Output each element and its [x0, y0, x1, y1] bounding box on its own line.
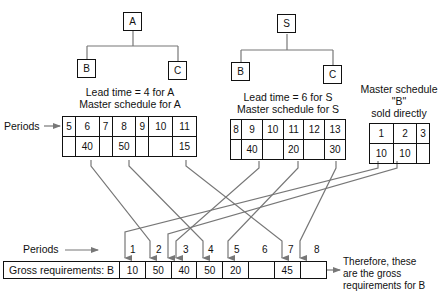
master-schedule-s-title: Master schedule for S [218, 103, 358, 115]
quantity-cell [262, 140, 283, 160]
quantity-cell: 15 [173, 137, 197, 157]
gross-period-number: 8 [314, 244, 320, 255]
gross-cell: 50 [197, 262, 223, 278]
period-cell: 12 [304, 120, 325, 140]
quantity-cell [231, 140, 242, 160]
quantity-cell [304, 140, 325, 160]
schedule-s-quantities: 40 20 30 [231, 140, 346, 160]
schedule-a-table: 5 6 7 8 9 10 11 40 50 15 [62, 116, 197, 157]
master-schedule-a-title: Master schedule for A [60, 98, 200, 110]
node-label: C [174, 65, 181, 76]
gross-period-number: 4 [208, 244, 214, 255]
gross-period-number: 6 [262, 244, 268, 255]
gross-cell [301, 262, 327, 278]
node-s-c: C [323, 65, 342, 84]
node-a-b: B [77, 59, 96, 78]
quantity-cell: 40 [242, 140, 263, 160]
quantity-cell: 40 [75, 137, 99, 157]
period-cell: 10 [149, 117, 173, 137]
schedule-a-quantities: 40 50 15 [63, 137, 197, 157]
quantity-cell [149, 137, 173, 157]
period-cell: 7 [99, 117, 112, 137]
period-cell: 11 [173, 117, 197, 137]
caption-a: Lead time = 4 for A Master schedule for … [60, 86, 200, 110]
gross-requirements-row: Gross requirements: B 10 50 40 50 20 45 [3, 261, 327, 279]
period-cell: 1 [370, 124, 394, 144]
quantity-cell [417, 144, 430, 164]
period-cell: 6 [75, 117, 99, 137]
gross-period-number: 7 [288, 244, 294, 255]
caption-line: sold directly [360, 107, 438, 119]
node-s: S [277, 14, 296, 33]
note-line: are the gross [343, 268, 425, 280]
tree-a-lines [87, 31, 178, 61]
schedule-b-table: 1 2 3 10 10 [369, 123, 430, 164]
node-a-c: C [168, 61, 187, 80]
periods-label-bottom: Periods [23, 243, 59, 255]
quantity-cell: 30 [325, 140, 346, 160]
period-cell: 13 [325, 120, 346, 140]
gross-cell: 20 [223, 262, 249, 278]
periods-label-top: Periods [4, 120, 40, 132]
quantity-cell [136, 137, 149, 157]
gross-cell: 40 [172, 262, 198, 278]
schedule-s-table: 8 9 10 11 12 13 40 20 30 [230, 119, 346, 160]
gross-cell: 10 [120, 262, 146, 278]
period-cell: 9 [242, 120, 263, 140]
schedule-a-periods: 5 6 7 8 9 10 11 [63, 117, 197, 137]
node-label: A [129, 16, 136, 27]
schedule-s-periods: 8 9 10 11 12 13 [231, 120, 346, 140]
gross-cell [249, 262, 275, 278]
period-cell: 5 [63, 117, 76, 137]
quantity-cell [99, 137, 112, 157]
caption-b-direct: Master schedule "B" sold directly [360, 83, 438, 119]
lead-time-s: Lead time = 6 for S [218, 91, 358, 103]
quantity-cell: 20 [283, 140, 304, 160]
node-label: B [237, 66, 244, 77]
period-cell: 2 [393, 124, 417, 144]
period-cell: 3 [417, 124, 430, 144]
quantity-cell: 10 [393, 144, 417, 164]
schedule-b-quantities: 10 10 [370, 144, 430, 164]
period-cell: 11 [283, 120, 304, 140]
schedule-b-periods: 1 2 3 [370, 124, 430, 144]
caption-line: "B" [360, 95, 438, 107]
gross-period-number: 2 [156, 244, 162, 255]
caption-line: Master schedule [360, 83, 438, 95]
period-cell: 8 [112, 117, 136, 137]
gross-period-number: 5 [234, 244, 240, 255]
node-s-b: B [231, 62, 250, 81]
node-a: A [123, 12, 142, 31]
caption-s: Lead time = 6 for S Master schedule for … [218, 91, 358, 115]
note-line: requirements for B [343, 280, 425, 292]
lead-time-a: Lead time = 4 for A [60, 86, 200, 98]
tree-s-lines [241, 34, 333, 65]
gross-period-number: 1 [130, 244, 136, 255]
node-label: C [329, 69, 336, 80]
gross-cell: 50 [146, 262, 172, 278]
gross-cell: 45 [275, 262, 301, 278]
quantity-cell [63, 137, 76, 157]
gross-requirements-label: Gross requirements: B [4, 262, 120, 278]
period-cell: 10 [262, 120, 283, 140]
node-label: S [283, 18, 290, 29]
period-cell: 9 [136, 117, 149, 137]
node-label: B [83, 63, 90, 74]
quantity-cell: 10 [370, 144, 394, 164]
note-line: Therefore, these [343, 256, 425, 268]
period-cell: 8 [231, 120, 242, 140]
conclusion-note: Therefore, these are the gross requireme… [343, 256, 425, 292]
offset-arrows [91, 160, 397, 258]
gross-period-number: 3 [183, 244, 189, 255]
quantity-cell: 50 [112, 137, 136, 157]
